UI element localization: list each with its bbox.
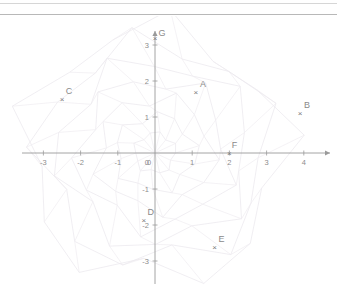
point-marker-icon: ×	[60, 95, 65, 104]
plotted-points: ×A×B×C×D×E×F×G	[60, 28, 310, 252]
point-marker-icon: ×	[194, 88, 199, 97]
point-label-g: G	[158, 28, 165, 38]
x-tick-label: -2	[77, 158, 84, 167]
background-radial-web	[12, 16, 304, 284]
point-label-b: B	[304, 100, 310, 110]
point-label-f: F	[232, 140, 238, 150]
coordinate-plot-svg: -3-2-101234321-1-2-30 ×A×B×C×D×E×F×G	[0, 16, 337, 288]
x-tick-label: -1	[114, 158, 121, 167]
data-point-c[interactable]: ×C	[60, 86, 73, 104]
point-label-d: D	[148, 207, 155, 217]
data-point-a[interactable]: ×A	[194, 79, 206, 97]
point-marker-icon: ×	[298, 109, 303, 118]
y-tick-label: -1	[142, 185, 149, 194]
top-divider-lower	[0, 14, 337, 15]
point-marker-icon: ×	[142, 216, 147, 225]
x-tick-label: 2	[227, 158, 231, 167]
x-tick-label: -3	[40, 158, 47, 167]
y-tick-label: -3	[142, 257, 149, 266]
point-label-c: C	[66, 86, 73, 96]
x-tick-label: 3	[265, 158, 269, 167]
y-tick-label: 1	[145, 113, 149, 122]
axes	[22, 31, 330, 284]
coordinate-plane-page: -3-2-101234321-1-2-30 ×A×B×C×D×E×F×G	[0, 0, 337, 288]
y-tick-label: 3	[145, 41, 149, 50]
data-point-b[interactable]: ×B	[298, 100, 310, 118]
point-label-a: A	[200, 79, 206, 89]
x-tick-label: 4	[302, 158, 306, 167]
point-marker-icon: ×	[153, 34, 158, 43]
point-marker-icon: ×	[227, 149, 232, 158]
data-point-f[interactable]: ×F	[227, 140, 238, 158]
top-divider-upper	[0, 3, 337, 4]
plot-area: -3-2-101234321-1-2-30 ×A×B×C×D×E×F×G	[0, 16, 337, 288]
x-tick-label: 1	[190, 158, 194, 167]
point-marker-icon: ×	[212, 243, 217, 252]
data-point-g[interactable]: ×G	[153, 28, 166, 43]
y-tick-label: 2	[145, 77, 149, 86]
axis-ticks: -3-2-101234321-1-2-30	[40, 41, 306, 266]
origin-label: 0	[145, 158, 149, 167]
point-label-e: E	[219, 234, 225, 244]
